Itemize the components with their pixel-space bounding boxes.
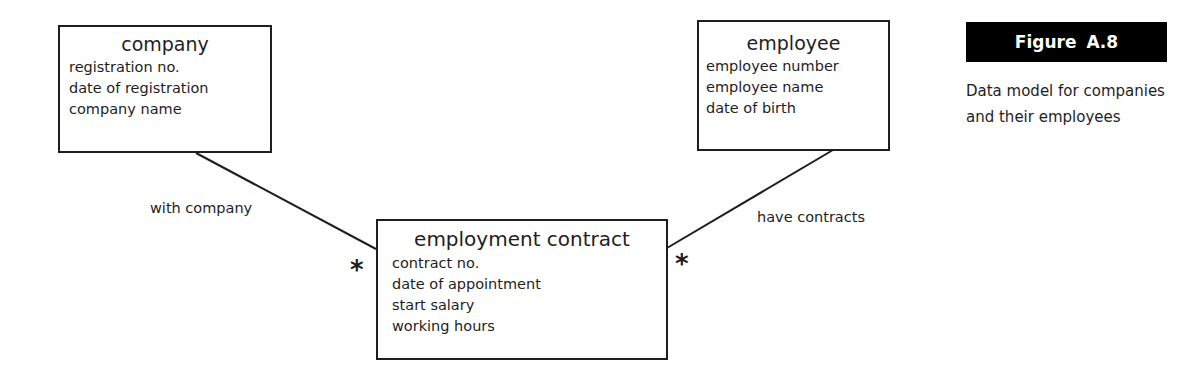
attribute: working hours	[392, 316, 666, 337]
entity-title: employment contract	[378, 228, 666, 250]
attribute: employee name	[706, 77, 888, 98]
attribute-list: registration no. date of registration co…	[60, 57, 270, 120]
figure-caption: Data model for companies and their emplo…	[966, 78, 1166, 130]
line-employee-contract	[667, 150, 833, 248]
attribute: contract no.	[392, 253, 666, 274]
attribute: employee number	[706, 56, 888, 77]
relationship-label-with-company: with company	[150, 200, 252, 216]
multiplicity-many-icon: *	[675, 251, 689, 277]
relationship-label-have-contracts: have contracts	[757, 209, 865, 225]
attribute-list: contract no. date of appointment start s…	[378, 253, 666, 337]
attribute: date of registration	[69, 78, 270, 99]
entity-employment-contract[interactable]: employment contract contract no. date of…	[376, 219, 668, 360]
multiplicity-many-icon: *	[350, 257, 364, 283]
entity-employee[interactable]: employee employee number employee name d…	[697, 20, 890, 151]
attribute-list: employee number employee name date of bi…	[699, 56, 888, 119]
attribute: date of appointment	[392, 274, 666, 295]
attribute: company name	[69, 99, 270, 120]
attribute: start salary	[392, 295, 666, 316]
entity-title: employee	[699, 32, 888, 54]
entity-title: company	[60, 33, 270, 55]
attribute: registration no.	[69, 57, 270, 78]
attribute: date of birth	[706, 98, 888, 119]
figure-label: Figure A.8	[966, 22, 1167, 62]
entity-company[interactable]: company registration no. date of registr…	[58, 25, 272, 153]
